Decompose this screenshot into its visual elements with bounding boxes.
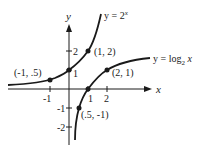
point-2-1 xyxy=(105,68,110,73)
graph-svg: x y -1 1 2 1 2 -1 -2 (1, 2) (-1, .5) (2,… xyxy=(0,0,210,155)
label-point-2-1: (2, 1) xyxy=(112,67,134,79)
y-tick-neg1: -1 xyxy=(57,103,65,114)
y-tick-1: 1 xyxy=(73,68,78,79)
y-tick-2: 2 xyxy=(73,46,78,57)
y-axis-label: y xyxy=(65,10,71,22)
label-point-half-neg1: (.5, -1) xyxy=(81,109,109,121)
point-1-0 xyxy=(86,87,91,92)
label-logarithm: y = log2 x xyxy=(153,53,192,67)
function-graph-diagram: x y -1 1 2 1 2 -1 -2 (1, 2) (-1, .5) (2,… xyxy=(0,0,210,155)
label-point-1-2: (1, 2) xyxy=(94,46,116,58)
x-axis-label: x xyxy=(155,83,161,95)
x-tick-1: 1 xyxy=(88,93,93,104)
label-point-neg1-half: (-1, .5) xyxy=(14,67,42,79)
x-tick-2: 2 xyxy=(104,93,109,104)
plotted-points xyxy=(48,49,110,111)
point-0-1 xyxy=(67,68,72,73)
x-axis xyxy=(8,86,152,92)
point-1-2 xyxy=(86,49,91,54)
x-tick-neg1: -1 xyxy=(43,93,51,104)
point-neg1-half xyxy=(48,78,53,83)
y-tick-neg2: -2 xyxy=(57,122,65,133)
label-exponential: y = 2x xyxy=(104,9,129,21)
